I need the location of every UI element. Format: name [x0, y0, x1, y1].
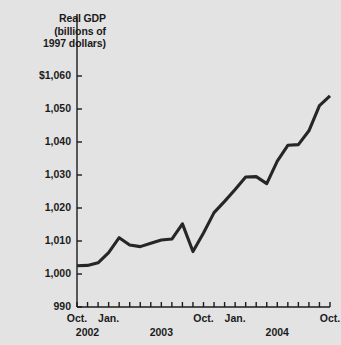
y-axis-tick-label: 1,020: [11, 201, 71, 213]
x-axis-tick-label: Jan.: [215, 312, 255, 324]
chart-title-line-3: 1997 dollars): [8, 37, 106, 50]
real-gdp-chart: Real GDP (billions of 1997 dollars) $1,0…: [0, 0, 341, 345]
y-axis-tick-label: 1,050: [11, 102, 71, 114]
y-axis-tick-label: 1,030: [11, 168, 71, 180]
chart-title-line-1: Real GDP: [8, 12, 106, 25]
y-axis-tick-label: 1,040: [11, 135, 71, 147]
x-axis-tick-label: Jan.: [89, 312, 129, 324]
chart-title-line-2: (billions of: [8, 25, 106, 38]
x-axis-tick-label: Oct.: [310, 312, 341, 324]
x-axis-year-label: 2003: [141, 326, 181, 338]
y-axis-tick-label: 990: [11, 300, 71, 312]
chart-title: Real GDP (billions of 1997 dollars): [8, 12, 106, 50]
x-axis-year-label: 2004: [257, 326, 297, 338]
x-axis-year-label: 2002: [68, 326, 108, 338]
y-axis-tick-label: 1,000: [11, 267, 71, 279]
y-axis-tick-label: 1,010: [11, 234, 71, 246]
y-axis-tick-label: $1,060: [11, 69, 71, 81]
